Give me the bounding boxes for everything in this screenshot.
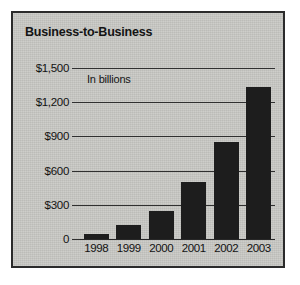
y-axis-tick-label: $600 [45,165,69,177]
y-axis-tick [72,205,80,206]
bar-1998 [84,234,109,239]
y-axis-tick-label: $900 [45,130,69,142]
page-title: Business-to-Business [25,25,152,39]
y-axis-tick [72,239,80,240]
y-axis-tick-label: $1,500 [36,62,69,74]
bar-2003 [246,87,271,239]
bar-2000 [149,211,174,240]
chart-figure: Business-to-Business In billions 0$300$6… [0,0,300,285]
x-axis-tick-label: 2000 [145,242,178,254]
y-axis-tick-label: $1,200 [36,96,69,108]
x-axis-tick-label: 1999 [112,242,145,254]
y-axis-labels: 0$300$600$900$1,200$1,500 [13,68,69,239]
y-axis-tick [72,136,80,137]
plot-area [80,68,275,239]
bar-2002 [214,142,239,239]
y-axis-tick [72,102,80,103]
y-axis-tick-label: $300 [45,199,69,211]
x-axis-tick-label: 1998 [80,242,113,254]
bar-2001 [181,182,206,239]
y-axis-tick-label: 0 [63,233,69,245]
x-axis-tick-label: 2002 [210,242,243,254]
x-axis-tick-label: 2003 [242,242,275,254]
y-axis-tick [72,171,80,172]
x-axis-tick-label: 2001 [177,242,210,254]
chart-panel: Business-to-Business In billions 0$300$6… [11,11,285,268]
y-axis-tick [72,68,80,69]
bar-1999 [116,225,141,239]
gridline [80,68,275,69]
x-axis-labels: 199819992000200120022003 [80,242,275,260]
axis-baseline [80,239,275,240]
